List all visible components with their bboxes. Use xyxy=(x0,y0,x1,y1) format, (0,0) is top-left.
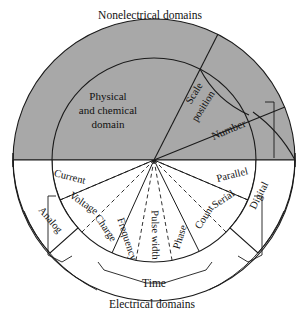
physical-domain-line1: Physical xyxy=(89,90,126,102)
sector-label-pulse-width: Pulse width xyxy=(150,210,162,260)
nonelectrical-domains-title: Nonelectrical domains xyxy=(98,9,202,21)
time-bracket-label: Time xyxy=(142,277,166,289)
physical-domain-line3: domain xyxy=(92,118,125,130)
physical-domain-line2: and chemical xyxy=(79,104,137,116)
data-domains-diagram: Nonelectrical domains Physical and chemi… xyxy=(0,0,301,319)
electrical-domains-title: Electrical domains xyxy=(109,298,195,310)
